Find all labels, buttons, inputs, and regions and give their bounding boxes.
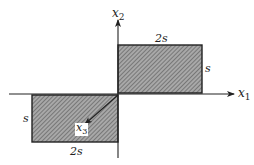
lower-height-label: s: [23, 112, 29, 125]
x2-axis-label: x2: [112, 6, 125, 22]
upper-height-label: s: [205, 62, 211, 75]
upper-rectangle: [118, 45, 202, 93]
x1-axis-label: x1: [238, 86, 251, 102]
diagram-canvas: x2 x1 x3 2s s s 2s: [0, 0, 254, 165]
lower-width-label: 2s: [69, 145, 83, 158]
upper-width-label: 2s: [154, 32, 168, 45]
